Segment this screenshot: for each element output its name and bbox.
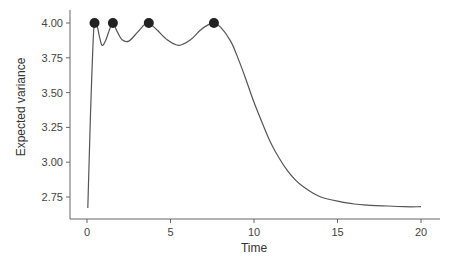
maximum-marker — [90, 18, 100, 28]
y-tick-label: 3.50 — [42, 87, 63, 99]
x-tick-label: 10 — [248, 226, 260, 238]
y-tick-label: 3.00 — [42, 156, 63, 168]
x-tick-label: 0 — [84, 226, 90, 238]
series-line — [88, 20, 421, 208]
y-tick-label: 2.75 — [42, 191, 63, 203]
line-chart: 051015202.753.003.253.503.754.00TimeExpe… — [0, 0, 449, 268]
maximum-marker — [144, 18, 154, 28]
y-tick-label: 4.00 — [42, 17, 63, 29]
x-tick-label: 20 — [415, 226, 427, 238]
x-tick-label: 5 — [167, 226, 173, 238]
y-tick-label: 3.25 — [42, 121, 63, 133]
plot-area — [88, 18, 421, 208]
x-axis-title: Time — [241, 241, 268, 255]
y-axis-title: Expected variance — [14, 57, 28, 156]
x-tick-label: 15 — [331, 226, 343, 238]
maximum-marker — [209, 18, 219, 28]
y-tick-label: 3.75 — [42, 52, 63, 64]
axes: 051015202.753.003.253.503.754.00TimeExpe… — [14, 10, 440, 255]
maximum-marker — [108, 18, 118, 28]
